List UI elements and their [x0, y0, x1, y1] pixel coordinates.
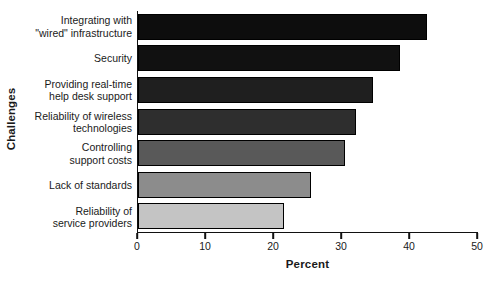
y-axis-title-text: Challenges — [5, 88, 17, 150]
bar — [138, 14, 427, 40]
category-label: Reliability of service providers — [22, 201, 136, 233]
x-axis-tick-labels: 01020304050 — [137, 240, 478, 256]
bar-slot — [138, 43, 478, 75]
bar-slot — [138, 74, 478, 106]
category-label: Integrating with "wired" infrastructure — [22, 11, 136, 43]
bar-slot — [138, 11, 478, 43]
x-axis-tick-label: 30 — [335, 240, 347, 252]
x-axis-tick-label: 10 — [199, 240, 211, 252]
x-axis-tick — [340, 233, 342, 239]
x-axis-tick — [204, 233, 206, 239]
bar-slot — [138, 200, 478, 232]
x-axis-tick — [272, 233, 274, 239]
bar — [138, 203, 284, 229]
category-label: Providing real-time help desk support — [22, 74, 136, 106]
bar — [138, 140, 345, 166]
bar-slot — [138, 169, 478, 201]
category-label: Security — [22, 43, 136, 75]
x-axis-title: Percent — [137, 258, 478, 270]
bar — [138, 109, 356, 135]
category-label: Lack of standards — [22, 170, 136, 202]
x-axis-tick-label: 0 — [134, 240, 140, 252]
bar — [138, 172, 311, 198]
bar-chart: Challenges Integrating with "wired" infr… — [0, 0, 496, 285]
bar-slot — [138, 106, 478, 138]
bar — [138, 45, 400, 71]
bar — [138, 77, 373, 103]
x-axis-tick-label: 50 — [471, 240, 483, 252]
plot-area — [137, 11, 478, 233]
y-axis-title: Challenges — [0, 0, 22, 238]
x-axis-tick-label: 40 — [403, 240, 415, 252]
category-label: Controlling support costs — [22, 138, 136, 170]
x-axis-tick — [136, 233, 138, 239]
x-axis-tick-label: 20 — [267, 240, 279, 252]
bars-layer — [138, 11, 478, 232]
x-axis-ticks — [137, 233, 478, 240]
bar-slot — [138, 137, 478, 169]
x-axis-tick — [408, 233, 410, 239]
category-label: Reliability of wireless technologies — [22, 106, 136, 138]
x-axis-tick — [476, 233, 478, 239]
category-label-list: Integrating with "wired" infrastructure … — [22, 11, 136, 233]
